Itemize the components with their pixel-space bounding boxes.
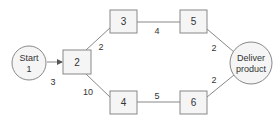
node-deliver-label-2: product	[236, 64, 267, 74]
node-deliver-label-1: Deliver	[237, 53, 265, 63]
weight-3-5: 4	[154, 26, 159, 36]
node-2: 2	[63, 50, 91, 74]
weight-start-2: 3	[50, 77, 55, 87]
node-5: 5	[180, 10, 207, 33]
weight-2-4: 10	[83, 87, 93, 97]
node-4-label: 4	[121, 97, 127, 108]
node-start-label-2: 1	[26, 64, 31, 74]
node-2-label: 2	[74, 57, 80, 68]
weight-4-6: 5	[154, 91, 159, 101]
node-3-label: 3	[121, 16, 127, 27]
node-6-label: 6	[191, 97, 197, 108]
node-start-label-1: Start	[19, 53, 39, 63]
weight-6-deliver: 2	[211, 75, 216, 85]
weight-2-3: 2	[98, 42, 103, 52]
node-5-label: 5	[191, 16, 197, 27]
node-4: 4	[110, 91, 137, 114]
network-diagram: Start 1 2 3 4 5 6 Deliver product 3 2 10…	[0, 0, 277, 124]
node-deliver: Deliver product	[230, 42, 272, 84]
weight-5-deliver: 2	[211, 43, 216, 53]
node-3: 3	[110, 10, 137, 33]
node-6: 6	[180, 91, 207, 114]
node-start: Start 1	[12, 46, 46, 80]
